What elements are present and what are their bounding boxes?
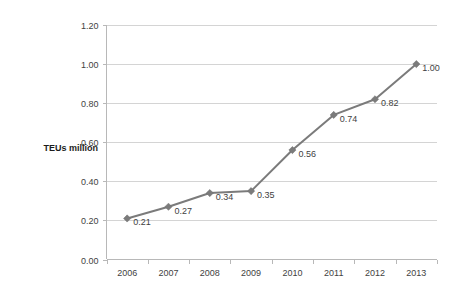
line-chart: 1.201.000.800.600.400.200.00 20062007200…	[0, 0, 457, 293]
data-point-label: 0.74	[340, 114, 358, 124]
data-point-label: 0.27	[174, 206, 192, 216]
y-axis-title: TEUs million	[43, 143, 98, 153]
x-axis-tick-label: 2008	[200, 268, 220, 278]
data-point-label: 0.34	[216, 192, 234, 202]
data-point-label: 1.00	[422, 63, 440, 73]
data-point-label: 0.35	[257, 190, 275, 200]
x-axis-tick-label: 2010	[282, 268, 302, 278]
x-axis-tick-label: 2009	[241, 268, 261, 278]
x-axis-tick-label: 2006	[117, 268, 137, 278]
y-axis-tick-label: 0.00	[81, 256, 99, 266]
data-point-label: 0.56	[298, 149, 316, 159]
chart-canvas: 1.201.000.800.600.400.200.00 20062007200…	[0, 0, 457, 293]
data-point-label: 0.21	[133, 217, 151, 227]
y-axis-tick-label: 0.40	[81, 177, 99, 187]
x-axis-tick-label: 2013	[406, 268, 426, 278]
x-axis-tick-label: 2011	[324, 268, 343, 278]
y-axis-tick-label: 0.80	[81, 99, 99, 109]
data-point-label: 0.82	[381, 98, 399, 108]
x-axis-tick-label: 2007	[158, 268, 178, 278]
y-axis-tick-label: 1.00	[81, 60, 99, 70]
y-axis-tick-label: 1.20	[81, 21, 99, 31]
y-axis-tick-label: 0.20	[81, 216, 99, 226]
x-axis-tick-label: 2012	[365, 268, 385, 278]
